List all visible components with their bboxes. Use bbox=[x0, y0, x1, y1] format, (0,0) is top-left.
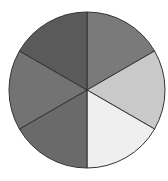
pie-slices bbox=[9, 12, 165, 168]
pie-chart bbox=[0, 0, 168, 181]
